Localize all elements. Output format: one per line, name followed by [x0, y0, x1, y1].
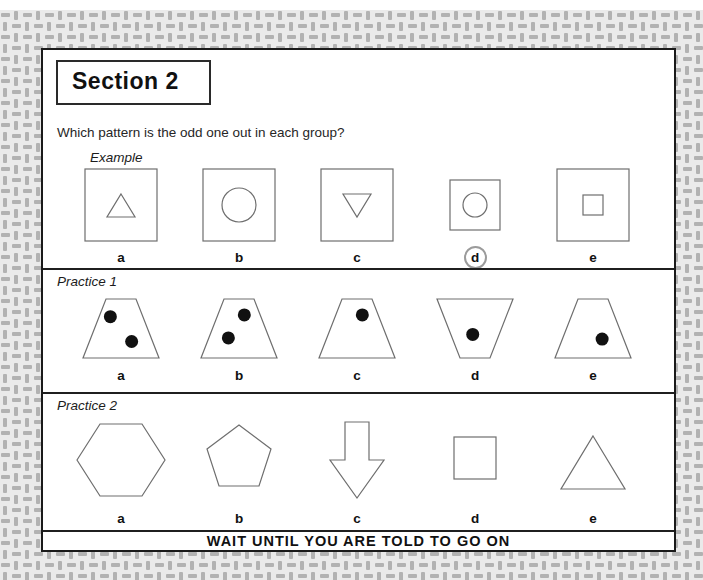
- pentagon-shape: [180, 416, 298, 504]
- option-cell-practice1-c[interactable]: c: [298, 297, 416, 387]
- option-label: b: [235, 511, 243, 526]
- option-label: a: [117, 511, 125, 526]
- option-label-wrap: b: [235, 506, 243, 530]
- option-label: a: [117, 368, 125, 383]
- arrow-down-shape: [298, 416, 416, 504]
- square-shape: [298, 167, 416, 243]
- option-cell-practice1-d[interactable]: d: [416, 297, 534, 387]
- option-cell-practice1-a[interactable]: a: [62, 297, 180, 387]
- footer-banner: WAIT UNTIL YOU ARE TOLD TO GO ON: [43, 530, 674, 550]
- section-title: Section 2: [72, 68, 179, 94]
- square-small-shape: [416, 167, 534, 243]
- option-label-wrap: c: [353, 363, 361, 387]
- option-label: d: [471, 368, 479, 383]
- option-label: e: [589, 511, 597, 526]
- option-label: a: [117, 250, 125, 265]
- option-label-wrap: a: [117, 363, 125, 387]
- option-label-wrap: e: [589, 363, 597, 387]
- option-label-wrap: c: [353, 245, 361, 269]
- practice2-row: abcde: [43, 416, 674, 530]
- option-label-wrap: b: [235, 363, 243, 387]
- option-cell-example-b[interactable]: b: [180, 167, 298, 269]
- option-label-wrap: b: [235, 245, 243, 269]
- option-cell-practice1-b[interactable]: b: [180, 297, 298, 387]
- answer-ring: d: [464, 246, 487, 269]
- group-label-practice2: Practice 2: [43, 394, 674, 413]
- practice1-row: abcde: [43, 297, 674, 387]
- option-cell-practice2-d[interactable]: d: [416, 416, 534, 530]
- section-title-box: Section 2: [56, 60, 211, 105]
- option-cell-example-a[interactable]: a: [62, 167, 180, 269]
- option-cell-practice2-b[interactable]: b: [180, 416, 298, 530]
- group-label-practice1: Practice 1: [43, 270, 674, 289]
- option-cell-practice1-e[interactable]: e: [534, 297, 652, 387]
- option-label-wrap: d: [471, 363, 479, 387]
- option-label: c: [353, 250, 361, 265]
- option-cell-example-c[interactable]: c: [298, 167, 416, 269]
- option-label-wrap: d: [471, 506, 479, 530]
- option-cell-example-d[interactable]: d: [416, 167, 534, 269]
- header-section: Section 2 Which pattern is the odd one o…: [43, 50, 674, 268]
- option-label-wrap: a: [117, 506, 125, 530]
- hexagon-shape: [62, 416, 180, 504]
- example-row: abcde: [43, 167, 674, 269]
- option-label: c: [353, 368, 361, 383]
- footer-text: WAIT UNTIL YOU ARE TOLD TO GO ON: [207, 533, 511, 549]
- option-cell-practice2-e[interactable]: e: [534, 416, 652, 530]
- trapezoid-shape: [62, 297, 180, 361]
- triangle-shape: [534, 416, 652, 504]
- option-label-wrap: e: [589, 245, 597, 269]
- option-label: e: [589, 368, 597, 383]
- option-label: b: [235, 250, 243, 265]
- option-label-wrap: c: [353, 506, 361, 530]
- square-plain-shape: [416, 416, 534, 504]
- option-label-wrap: a: [117, 245, 125, 269]
- trapezoid-shape: [180, 297, 298, 361]
- option-label: d: [471, 250, 479, 265]
- practice1-section: Practice 1 abcde: [43, 268, 674, 392]
- question-text: Which pattern is the odd one out in each…: [57, 125, 674, 140]
- square-shape: [62, 167, 180, 243]
- option-cell-example-e[interactable]: e: [534, 167, 652, 269]
- option-cell-practice2-a[interactable]: a: [62, 416, 180, 530]
- option-label: d: [471, 511, 479, 526]
- trapezoid-shape: [298, 297, 416, 361]
- option-label-wrap: d: [464, 245, 487, 269]
- test-page: Section 2 Which pattern is the odd one o…: [41, 48, 676, 552]
- option-cell-practice2-c[interactable]: c: [298, 416, 416, 530]
- trapezoid-shape: [534, 297, 652, 361]
- option-label-wrap: e: [589, 506, 597, 530]
- option-label: e: [589, 250, 597, 265]
- option-label: c: [353, 511, 361, 526]
- practice2-section: Practice 2 abcde: [43, 392, 674, 530]
- square-shape: [180, 167, 298, 243]
- group-label-example: Example: [90, 150, 674, 165]
- trapezoid-inverted-shape: [416, 297, 534, 361]
- square-shape: [534, 167, 652, 243]
- option-label: b: [235, 368, 243, 383]
